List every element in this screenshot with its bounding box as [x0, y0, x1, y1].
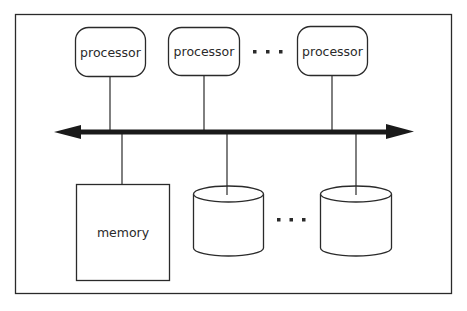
- bus-left-arrowhead-icon: [54, 125, 81, 139]
- processor-2-label: processor: [174, 44, 236, 59]
- disk-2: [321, 186, 392, 256]
- processor-1: processor: [76, 28, 146, 77]
- bus-right-arrowhead-icon: [386, 124, 414, 139]
- processor-1-label: processor: [80, 45, 142, 60]
- disk-1: [194, 186, 264, 256]
- processor-3: processor: [298, 27, 368, 76]
- disk-ellipsis: [277, 218, 306, 222]
- system-bus: [54, 124, 414, 139]
- processor-2: processor: [169, 28, 240, 76]
- shared-bus-diagram: processor processor processor memory: [0, 0, 467, 311]
- memory-label: memory: [97, 225, 150, 240]
- processor-ellipsis: [253, 50, 283, 54]
- memory-block: memory: [77, 185, 170, 281]
- processor-3-label: processor: [302, 44, 364, 59]
